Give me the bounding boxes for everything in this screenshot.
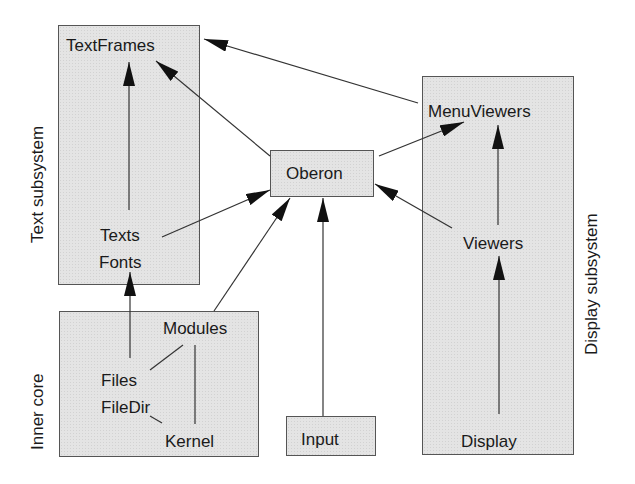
node-display: Display [461,433,517,450]
dependency-edges [0,0,635,484]
node-kernel: Kernel [165,433,214,450]
node-modules: Modules [163,320,227,337]
edge-filedir-kernel [150,416,162,423]
node-textframes: TextFrames [66,37,155,54]
node-oberon: Oberon [286,165,343,182]
node-fonts: Fonts [99,254,142,271]
group-label-inner-core: Inner core [29,373,46,450]
edge-viewers-oberon [375,184,452,228]
edge-texts-oberon [162,190,270,237]
edge-oberon-textframes [156,61,270,156]
edge-oberon-menuviewers [379,122,464,156]
node-texts: Texts [100,227,140,244]
group-label-text-subsystem: Text subsystem [29,126,46,243]
node-viewers: Viewers [463,235,523,252]
edge-menuviewers-textframes [204,39,418,103]
edge-modules-oberon [214,198,290,311]
node-input: Input [301,431,339,448]
edge-modules-files [150,345,183,370]
group-label-display-subsystem: Display subsystem [583,213,600,355]
node-files: Files [101,372,137,389]
node-menuviewers: MenuViewers [428,103,531,120]
node-filedir: FileDir [101,399,150,416]
